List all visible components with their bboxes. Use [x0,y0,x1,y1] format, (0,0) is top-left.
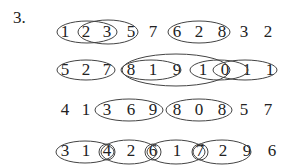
digit: 5 [58,60,72,80]
digit: 6 [146,141,160,161]
digit-row-3: 4 1 3 6 9 8 0 8 5 7 [0,100,289,130]
digit: 5 [237,100,251,120]
digit: 9 [146,100,160,120]
digit: 2 [261,22,275,42]
digit: 1 [146,60,160,80]
digit: 8 [215,100,229,120]
digit: 1 [79,141,93,161]
digit: 7 [261,100,275,120]
digit: 5 [124,22,138,42]
digit: 2 [192,22,206,42]
digit: 3 [100,22,114,42]
digit-row-4: 3 1 4 2 6 1 7 2 9 6 [0,141,289,168]
digit: 7 [146,22,160,42]
digit: 1 [196,60,210,80]
digit: 1 [240,60,254,80]
digit: 0 [192,100,206,120]
digit: 2 [79,60,93,80]
digit: 6 [170,22,184,42]
digit: 6 [124,100,138,120]
digit: 6 [265,141,279,161]
digit-row-2: 5 2 7 8 1 9 1 0 1 1 [0,60,289,90]
digit: 1 [170,141,184,161]
digit-row-1: 1 2 3 5 7 6 2 8 3 2 [0,22,289,52]
digit: 3 [100,100,114,120]
digit: 1 [263,60,277,80]
digit: 2 [216,141,230,161]
digit: 1 [79,100,93,120]
digit: 1 [58,22,72,42]
digit: 8 [124,60,138,80]
digit: 0 [218,60,232,80]
digit: 8 [170,100,184,120]
digit: 4 [58,100,72,120]
digit: 3 [237,22,251,42]
digit: 4 [100,141,114,161]
digit: 9 [170,60,184,80]
digit: 2 [124,141,138,161]
digit: 3 [58,141,72,161]
digit: 7 [100,60,114,80]
digit: 7 [193,141,207,161]
digit: 9 [240,141,254,161]
digit: 2 [79,22,93,42]
digit: 8 [215,22,229,42]
